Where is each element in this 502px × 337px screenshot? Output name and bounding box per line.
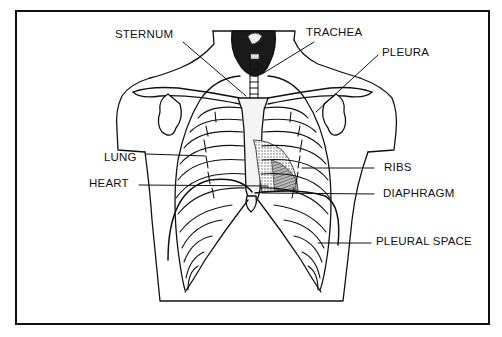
label-ribs: RIBS: [384, 162, 412, 174]
label-pleural-space: PLEURAL SPACE: [376, 236, 472, 248]
label-lung: LUNG: [104, 152, 137, 164]
ribs-left: [176, 107, 246, 290]
leader-diaphragm: [262, 193, 374, 194]
label-sternum: STERNUM: [115, 29, 173, 41]
costal-margin: [185, 200, 321, 292]
label-trachea: TRACHEA: [306, 27, 362, 39]
ribs-right: [260, 107, 330, 290]
leader-pleura: [316, 55, 378, 112]
label-pleura: PLEURA: [382, 47, 429, 59]
leader-lung: [146, 154, 205, 156]
heart: [254, 140, 298, 192]
label-heart: HEART: [89, 178, 129, 190]
label-diaphragm: DIAPHRAGM: [383, 188, 454, 200]
